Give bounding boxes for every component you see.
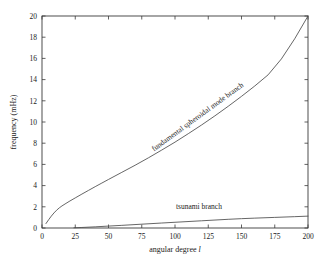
y-tick-label: 8 <box>33 139 37 148</box>
x-tick-label: 25 <box>72 232 80 241</box>
y-tick-label: 2 <box>33 203 37 212</box>
x-tick-label: 0 <box>40 232 44 241</box>
y-tick-label: 16 <box>30 54 38 63</box>
y-tick-label: 10 <box>30 118 38 127</box>
x-tick-label: 175 <box>269 232 281 241</box>
y-tick-label: 18 <box>30 33 38 42</box>
y-tick-label: 6 <box>33 160 37 169</box>
x-tick-label: 50 <box>105 232 113 241</box>
x-tick-label: 75 <box>138 232 146 241</box>
x-tick-label: 200 <box>302 232 314 241</box>
y-tick-label: 12 <box>30 97 38 106</box>
tsunami-branch-label: tsunami branch <box>176 202 222 211</box>
x-axis-title: angular degree l <box>149 245 201 254</box>
chart-figure: 0255075100125150175200 02468101214161820… <box>0 0 330 264</box>
y-tick-label: 0 <box>33 224 37 233</box>
x-tick-label: 150 <box>236 232 248 241</box>
y-tick-label: 14 <box>30 75 38 84</box>
y-tick-label: 4 <box>33 181 37 190</box>
x-tick-label: 125 <box>203 232 215 241</box>
y-tick-label: 20 <box>30 12 38 21</box>
figure-background <box>0 0 330 264</box>
x-axis-title-text: angular degree <box>149 245 198 254</box>
y-axis-title: frequency (mHz) <box>9 94 18 149</box>
x-tick-label: 100 <box>169 232 181 241</box>
